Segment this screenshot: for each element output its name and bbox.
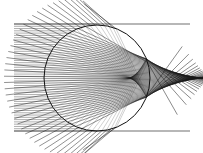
exiting-rays xyxy=(4,0,203,153)
ray-segment xyxy=(50,129,83,152)
ray-segment xyxy=(47,86,150,94)
ray-segment xyxy=(57,94,147,112)
ray-segment xyxy=(77,130,107,153)
ray-segment xyxy=(61,131,92,153)
ray-segment xyxy=(53,3,85,27)
ray-segment xyxy=(4,81,44,82)
ray-diagram xyxy=(0,0,203,153)
ray-segment xyxy=(16,34,54,46)
ray-segment xyxy=(5,86,45,89)
ray-segment xyxy=(7,95,46,101)
ray-segment xyxy=(72,131,102,153)
ray-segment xyxy=(80,0,110,26)
internal-rays xyxy=(44,25,150,131)
ray-segment xyxy=(61,96,146,117)
